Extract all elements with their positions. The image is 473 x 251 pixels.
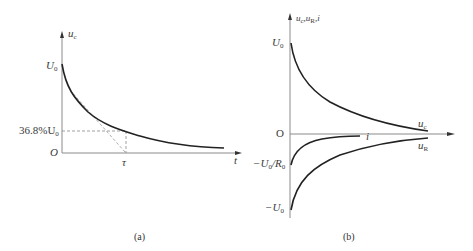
x-axis-label-a: t (234, 155, 237, 166)
caption-a: (a) (134, 231, 145, 242)
panel-a (60, 31, 242, 155)
neg-ir-tick-label: −U0/R0 (253, 158, 285, 171)
y-axis-label-b: uc,uR,i (296, 14, 320, 25)
i-curve (291, 136, 360, 165)
neg-u0-tick-label: −U0 (265, 202, 284, 215)
percent-tick-label: 36.8%U0 (19, 125, 59, 138)
y-axis-arrow-icon (60, 31, 64, 38)
y-axis-label-a: uc (68, 28, 77, 41)
y-axis-arrow-icon (288, 13, 292, 20)
tangent-line (70, 90, 125, 152)
tau-tick-label: τ (122, 157, 126, 168)
origin-label-a: O (50, 147, 58, 158)
u0-tick-label-a: U0 (46, 60, 57, 73)
origin-label-b: O (276, 128, 284, 139)
uc-curve (291, 43, 428, 131)
i-curve-label: i (366, 131, 369, 142)
ur-curve (291, 138, 428, 210)
panel-b (288, 13, 455, 218)
u0-tick-label-b: U0 (272, 37, 283, 50)
uc-curve-label: uc (418, 118, 427, 131)
uc-decay-curve (62, 64, 224, 148)
x-axis-arrow-icon (447, 132, 455, 136)
ur-curve-label: uR (418, 140, 428, 153)
caption-b: (b) (343, 231, 355, 242)
